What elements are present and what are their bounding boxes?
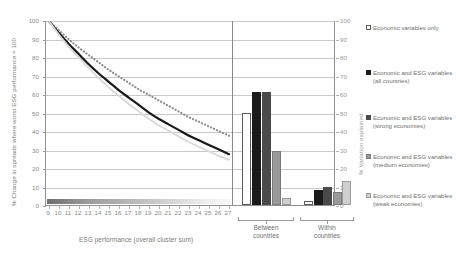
x-tick-mark xyxy=(59,206,60,209)
y-tick-label-left: 10 xyxy=(25,185,39,191)
bar xyxy=(252,92,261,205)
x-tick-mark xyxy=(199,206,200,209)
legend-label: Economic and ESG variables (strong econo… xyxy=(373,114,453,130)
y-tick-mark-right xyxy=(336,169,339,170)
y-axis-left-title: % Change in spreads where worst ESG perf… xyxy=(10,38,17,206)
x-tick-mark xyxy=(219,206,220,209)
x-tick-mark xyxy=(69,206,70,209)
x-tick-label: 27 xyxy=(222,210,234,216)
y-axis-right-title: % Variation explained xyxy=(357,114,364,176)
legend-swatch-icon xyxy=(366,70,371,75)
y-tick-label-right: 30 xyxy=(340,148,354,154)
y-tick-label-right: 40 xyxy=(340,129,354,135)
y-tick-mark-right xyxy=(336,151,339,152)
x-tick-mark xyxy=(119,206,120,209)
y-tick-label-right: 90 xyxy=(340,37,354,43)
chart-figure: % Change in spreads where worst ESG perf… xyxy=(0,0,456,256)
legend-label: Economic and ESG variables (all countrie… xyxy=(373,69,453,85)
legend-swatch-icon xyxy=(366,25,371,30)
x-tick-mark xyxy=(89,206,90,209)
bar xyxy=(314,190,323,205)
y-tick-label-left: 30 xyxy=(25,148,39,154)
y-tick-label-left: 60 xyxy=(25,92,39,98)
x-tick-mark xyxy=(159,206,160,209)
y-tick-mark-right xyxy=(336,188,339,189)
group-label: Within countries xyxy=(301,224,353,240)
legend-label: Economic and ESG variables (weak economi… xyxy=(373,192,453,208)
y-tick-label-left: 0 xyxy=(25,203,39,209)
legend-label: Economic and ESG variables (medium econo… xyxy=(373,153,453,169)
y-tick-label-left: 20 xyxy=(25,166,39,172)
y-tick-label-right: 50 xyxy=(340,111,354,117)
bar xyxy=(262,92,271,205)
y-tick-mark-right xyxy=(336,206,339,207)
y-tick-label-left: 80 xyxy=(25,55,39,61)
x-tick-mark xyxy=(209,206,210,209)
legend-item[interactable]: Economic and ESG variables (medium econo… xyxy=(366,153,453,169)
line-series-1 xyxy=(49,21,229,136)
legend-swatch-icon xyxy=(366,193,371,198)
x-tick-mark xyxy=(99,206,100,209)
y-tick-mark-right xyxy=(336,77,339,78)
bar xyxy=(242,113,251,206)
y-tick-label-right: 70 xyxy=(340,74,354,80)
y-tick-mark-right xyxy=(336,58,339,59)
legend-swatch-icon xyxy=(366,154,371,159)
y-tick-mark-right xyxy=(336,95,339,96)
y-tick-mark-right xyxy=(336,21,339,22)
line-series-3 xyxy=(49,21,229,160)
x-tick-mark xyxy=(149,206,150,209)
group-label: Between countries xyxy=(240,224,292,240)
y-tick-label-right: 80 xyxy=(340,55,354,61)
x-tick-mark xyxy=(179,206,180,209)
legend-label: Economic variables only xyxy=(373,24,453,32)
bar xyxy=(323,187,332,206)
x-tick-mark xyxy=(139,206,140,209)
x-tick-mark xyxy=(129,206,130,209)
legend-item[interactable]: Economic variables only xyxy=(366,24,453,32)
x-tick-mark xyxy=(79,206,80,209)
bar xyxy=(282,198,291,205)
y-tick-label-left: 100 xyxy=(25,18,39,24)
y-tick-label-left: 50 xyxy=(25,111,39,117)
y-tick-mark-right xyxy=(336,114,339,115)
line-series-2 xyxy=(49,21,229,154)
plot-area xyxy=(45,21,335,206)
x-axis-title: ESG performance (overall cluster sum) xyxy=(79,236,193,243)
line-series-group xyxy=(46,21,336,206)
x-tick-mark xyxy=(229,206,230,209)
y-tick-mark-right xyxy=(336,40,339,41)
y-tick-label-left: 40 xyxy=(25,129,39,135)
y-tick-label-left: 70 xyxy=(25,74,39,80)
bar xyxy=(333,192,342,205)
legend-swatch-icon xyxy=(366,115,371,120)
y-tick-label-right: 60 xyxy=(340,92,354,98)
legend-item[interactable]: Economic and ESG variables (strong econo… xyxy=(366,114,453,130)
x-tick-mark xyxy=(109,206,110,209)
bar xyxy=(272,151,281,205)
legend-item[interactable]: Economic and ESG variables (all countrie… xyxy=(366,69,453,85)
x-tick-mark xyxy=(169,206,170,209)
x-tick-mark xyxy=(189,206,190,209)
bar xyxy=(342,181,351,205)
bar xyxy=(304,201,313,205)
legend-item[interactable]: Economic and ESG variables (weak economi… xyxy=(366,192,453,208)
x-tick-mark xyxy=(49,206,50,209)
y-tick-label-right: 20 xyxy=(340,166,354,172)
y-tick-mark xyxy=(43,206,46,207)
y-tick-label-left: 90 xyxy=(25,37,39,43)
y-tick-label-right: 100 xyxy=(340,18,354,24)
y-tick-mark-right xyxy=(336,132,339,133)
